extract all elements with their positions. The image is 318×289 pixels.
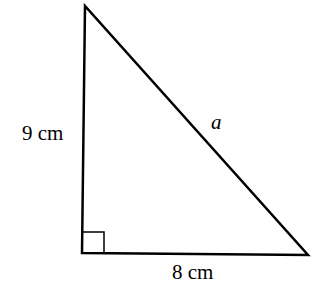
right-angle-marker [82, 232, 104, 253]
right-triangle [82, 6, 308, 255]
hypotenuse-label: a [211, 110, 222, 135]
horizontal-side-label: 8 cm [172, 260, 213, 285]
vertical-side-label: 9 cm [22, 121, 63, 146]
